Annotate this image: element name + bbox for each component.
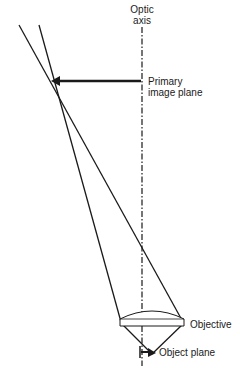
ray-2-lower xyxy=(122,324,152,354)
optical-diagram xyxy=(0,0,240,368)
objective-label: Objective xyxy=(190,319,232,330)
object-plane-label: Object plane xyxy=(159,347,215,358)
ray-1 xyxy=(19,25,183,322)
primary-image-plane-label: Primary image plane xyxy=(148,76,202,98)
primary-image-plane-line1: Primary xyxy=(148,76,202,87)
primary-image-plane-line2: image plane xyxy=(148,87,202,98)
optic-axis-label-line2: axis xyxy=(124,15,160,26)
optic-axis-label-line1: Optic xyxy=(124,4,160,15)
objective-lens xyxy=(120,311,184,326)
ray-2 xyxy=(39,25,121,322)
object-plane-arrow-head xyxy=(148,348,156,357)
optic-axis-label: Optic axis xyxy=(124,4,160,26)
